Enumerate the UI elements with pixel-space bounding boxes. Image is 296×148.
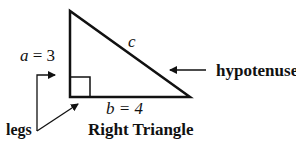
hypotenuse-var-label: c [128,33,136,50]
legs-arrow-vertical [37,75,55,131]
side-a-label: a = 3 [20,47,55,64]
legs-arrow-diagonal [37,104,78,131]
right-angle-marker [70,77,90,97]
diagram-title: Right Triangle [88,121,194,138]
right-triangle-diagram: a = 3 c b = 4 hypotenuse legs Right Tria… [0,0,296,148]
legs-label: legs [6,122,32,138]
triangle-shape [70,11,190,97]
hypotenuse-label: hypotenuse [216,62,296,79]
side-b-label: b = 4 [106,100,143,117]
